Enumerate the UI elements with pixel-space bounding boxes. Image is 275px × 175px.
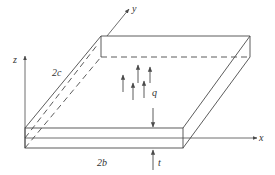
y-axis: y <box>107 3 137 36</box>
z-axis-label: z <box>12 54 17 65</box>
depth-label: 2c <box>52 67 62 78</box>
thickness-label: t <box>158 157 161 168</box>
plate-bottom-right-edge <box>183 57 250 148</box>
x-axis-label: x <box>258 132 264 143</box>
plate-top-right-edge <box>183 36 250 128</box>
width-label: 2b <box>97 157 107 168</box>
plate <box>25 36 250 148</box>
y-axis-label: y <box>131 3 137 14</box>
plate-top-left-edge <box>25 36 101 128</box>
plate-diagram: z x y 2c 2b t <box>0 0 275 175</box>
plate-hidden-left-edge-upper <box>25 44 98 138</box>
load-label: q <box>152 87 157 98</box>
thickness-indicator: t <box>153 108 161 170</box>
plate-hidden-left-edge-lower <box>25 57 101 148</box>
x-axis: x <box>25 132 264 143</box>
load-arrows: q <box>123 65 157 100</box>
z-axis: z <box>12 54 25 148</box>
